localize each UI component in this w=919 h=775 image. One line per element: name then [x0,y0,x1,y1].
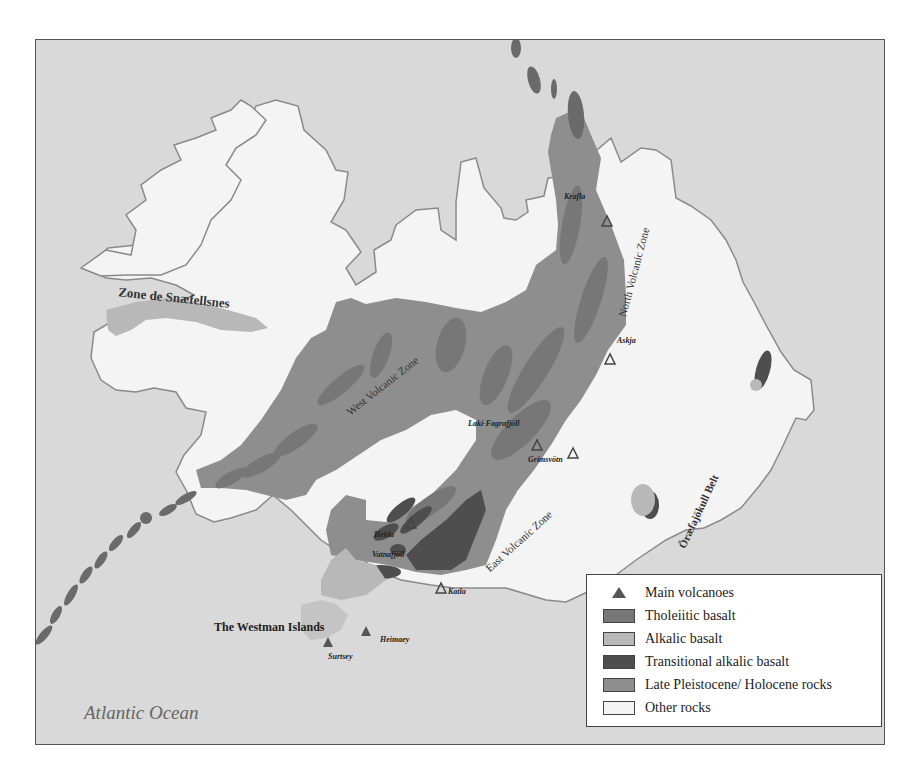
volcano-label-hekla: Hekla [374,530,394,539]
volcano-label-surtsey: Surtsey [328,652,352,661]
volcano-label-grimsvotn: Grímsvötn [528,455,563,464]
volcano-label-askja: Askja [617,336,636,345]
legend-label: Tholeiitic basalt [645,608,736,624]
legend-item-transitional-alkalic-basalt: Transitional alkalic basalt [587,650,881,673]
legend-label: Alkalic basalt [645,631,722,647]
volcano-label-heimaey: Heimaey [380,635,409,644]
other-rocks-swatch-icon [603,701,635,715]
atlantic-ocean-label: Atlantic Ocean [84,702,199,724]
legend-item-main-volcanoes: Main volcanoes [587,581,881,604]
alkalic-swatch-icon [603,632,635,646]
legend-label: Other rocks [645,700,711,716]
volcano-label-laki: Laki-Fagrafjöll [468,419,520,428]
legend-item-other-rocks: Other rocks [587,696,881,719]
legend-item-late-pleistocene: Late Pleistocene/ Holocene rocks [587,673,881,696]
volcano-label-krafla: Krafla [564,192,585,201]
map-frame: Zone de Snæfellsnes West Volcanic Zone N… [35,39,885,745]
legend-label: Main volcanoes [645,585,734,601]
volcano-triangle-icon [603,587,635,598]
volcano-label-vatnafjoll: Vatnafjöll [372,550,404,559]
legend-item-alkalic-basalt: Alkalic basalt [587,627,881,650]
map-legend: Main volcanoes Tholeiitic basalt Alkalic… [586,574,882,727]
late-pleistocene-swatch-icon [603,678,635,692]
legend-label: Late Pleistocene/ Holocene rocks [645,677,832,693]
legend-label: Transitional alkalic basalt [645,654,789,670]
transitional-swatch-icon [603,655,635,669]
westman-islands-label: The Westman Islands [214,620,324,635]
tholeiitic-swatch-icon [603,609,635,623]
legend-item-tholeiitic-basalt: Tholeiitic basalt [587,604,881,627]
volcano-label-katla: Katla [448,587,466,596]
